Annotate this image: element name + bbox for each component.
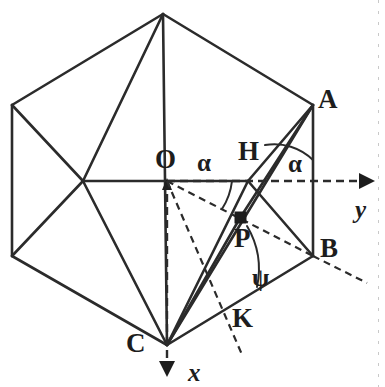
vertex-label-B: B (320, 235, 338, 262)
diagram-canvas: A B C O H P K α α ψ y x (0, 0, 385, 387)
page-edge-artifact (378, 0, 379, 387)
arc-alpha-at-O (222, 181, 232, 209)
vertex-label-K: K (232, 305, 253, 332)
geometry-figure (0, 0, 385, 387)
angle-label-alpha-at-A: α (288, 151, 302, 176)
internal-edges (12, 14, 313, 345)
y-axis-arrowhead (359, 173, 375, 189)
vertex-label-A: A (318, 86, 338, 113)
point-markers (235, 212, 246, 223)
edge-H-to-B (248, 181, 313, 256)
axis-label-y: y (355, 197, 366, 222)
edge-lower-left-to-center-left (12, 181, 83, 256)
vertex-label-O: O (155, 146, 176, 173)
edge-upper-left-to-center-left (12, 105, 83, 181)
x-axis-arrowhead (159, 361, 175, 377)
point-marker-P (235, 212, 246, 223)
angle-label-psi-at-B: ψ (252, 265, 269, 290)
vertex-label-C: C (126, 330, 146, 357)
hexagon-edge-top-right (163, 14, 313, 105)
angle-label-alpha-at-O: α (197, 150, 211, 175)
axis-label-x: x (188, 360, 201, 385)
vertex-label-P: P (234, 225, 251, 252)
vertex-label-H: H (238, 138, 259, 165)
